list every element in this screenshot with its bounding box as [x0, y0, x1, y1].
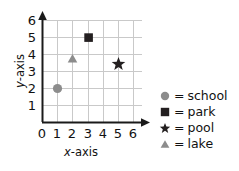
legend-label-park: park: [187, 105, 215, 119]
y-tick-label-5: 5: [24, 31, 36, 44]
x-axis-title-italic: x: [64, 145, 71, 159]
legend: = school = park = pool = lake: [158, 88, 239, 152]
square-marker-icon: [158, 105, 172, 119]
x-tick-label-3: 3: [81, 127, 95, 140]
x-tick-label-5: 5: [111, 127, 125, 140]
x-axis-title-rest: -axis: [71, 145, 98, 159]
legend-row-pool: = pool: [158, 120, 239, 136]
y-tick-label-6: 6: [24, 14, 36, 27]
coordinate-grid-figure: 1 2 3 4 5 6 0 1 2 3 4 5 6 x-axis y-axis …: [0, 0, 239, 171]
x-tick-label-4: 4: [96, 127, 110, 140]
y-axis-title: y-axis: [14, 54, 26, 88]
x-tick-label-0: 0: [35, 127, 49, 140]
data-point-school: [53, 84, 62, 93]
x-axis-title: x-axis: [64, 146, 98, 158]
x-tick-label-2: 2: [65, 127, 79, 140]
legend-row-school: = school: [158, 88, 239, 104]
legend-equals-school: =: [174, 89, 184, 103]
plot-area: 1 2 3 4 5 6 0 1 2 3 4 5 6 x-axis y-axis: [0, 0, 155, 171]
legend-equals-pool: =: [174, 121, 184, 135]
star-marker-icon: [158, 121, 172, 135]
x-tick-label-1: 1: [50, 127, 64, 140]
legend-row-park: = park: [158, 104, 239, 120]
y-axis-title-rest: -axis: [13, 54, 27, 81]
legend-label-lake: lake: [187, 137, 213, 151]
y-tick-label-1: 1: [24, 99, 36, 112]
legend-equals-park: =: [174, 105, 184, 119]
x-tick-label-6: 6: [126, 127, 140, 140]
data-point-lake: [68, 54, 78, 63]
legend-label-pool: pool: [187, 121, 214, 135]
legend-row-lake: = lake: [158, 136, 239, 152]
legend-label-school: school: [187, 89, 227, 103]
circle-marker-icon: [158, 89, 172, 103]
data-point-park: [84, 33, 93, 42]
y-axis-title-italic: y: [13, 81, 27, 88]
legend-equals-lake: =: [174, 137, 184, 151]
data-markers: [53, 33, 125, 93]
triangle-marker-icon: [158, 137, 172, 151]
